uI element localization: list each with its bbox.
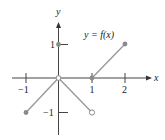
x-axis-label: x [153,72,159,83]
closed-point-neg1-neg1 [24,110,29,115]
x-tick-label-neg1: −1 [18,84,29,95]
y-axis-label: y [55,6,61,17]
closed-point-1-0 [90,76,95,81]
x-tick-label-2: 2 [122,84,127,95]
open-point-origin [56,76,61,81]
segment-right [92,44,125,78]
closed-point-2-1 [123,42,128,47]
segment-middle [59,78,93,113]
closed-point-0-1 [56,42,61,47]
y-axis-arrow-icon [56,22,61,28]
open-point-1-neg1 [89,110,94,115]
x-axis-arrow-icon [146,76,152,81]
function-graph: y x y = f(x) −1 1 2 1 −1 [0,0,165,140]
x-tick-label-1: 1 [90,84,95,95]
function-label: y = f(x) [83,29,115,41]
y-tick-label-neg1: −1 [43,107,54,118]
y-tick-label-1: 1 [50,39,55,50]
